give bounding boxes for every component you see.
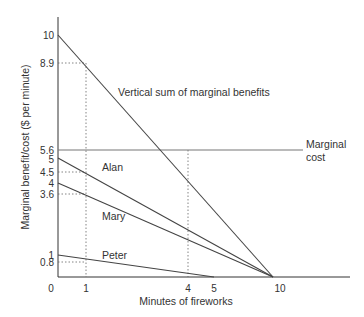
svg-text:5: 5 [48, 154, 54, 165]
x-tick-labels: 0 1 4 5 10 [48, 283, 286, 294]
mary-label: Mary [102, 210, 126, 222]
vertical-sum-line [58, 35, 273, 277]
x-axis-title: Minutes of fireworks [139, 295, 232, 307]
marginal-benefit-chart: 10 8.9 5.6 5 4.5 4 3.6 1 0.8 0 1 4 5 10 … [0, 0, 364, 317]
y-axis-title: Marginal benefit/cost ($ per minute) [19, 64, 31, 229]
svg-text:10: 10 [43, 30, 55, 41]
marginal-cost-label-line1: Marginal [306, 138, 346, 150]
svg-text:3.6: 3.6 [40, 189, 54, 200]
peter-label: Peter [102, 249, 128, 261]
vertical-sum-label: Vertical sum of marginal benefits [118, 86, 270, 98]
svg-text:4: 4 [48, 178, 54, 189]
mary-line [58, 183, 273, 277]
y-tick-labels: 10 8.9 5.6 5 4.5 4 3.6 1 0.8 [40, 30, 54, 268]
svg-text:4.5: 4.5 [40, 167, 54, 178]
svg-text:5: 5 [211, 283, 217, 294]
svg-text:0.8: 0.8 [40, 257, 54, 268]
peter-line [58, 255, 214, 277]
svg-text:1: 1 [83, 283, 89, 294]
alan-label: Alan [102, 161, 123, 173]
marginal-cost-label-line2: cost [306, 151, 325, 163]
svg-text:0: 0 [48, 283, 54, 294]
svg-text:4: 4 [185, 283, 191, 294]
svg-text:10: 10 [274, 283, 286, 294]
svg-text:8.9: 8.9 [40, 58, 54, 69]
